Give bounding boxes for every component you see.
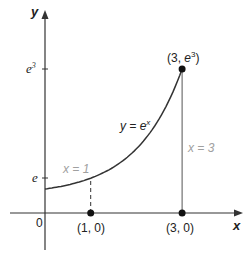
point-3-0: [179, 210, 186, 217]
y-tick-label-e: e: [32, 170, 38, 185]
point-label-3-0: (3, 0): [166, 221, 194, 235]
y-axis-arrow-icon: [42, 10, 49, 19]
point-label-3-e3: (3, e3): [167, 50, 199, 65]
curve-label: y = ex: [119, 118, 151, 133]
origin-label: 0: [36, 216, 43, 230]
x-axis-arrow-icon: [234, 210, 243, 217]
y-tick-label-e3: e3: [26, 61, 36, 76]
point-1-0: [87, 210, 94, 217]
x-axis-label: x: [232, 218, 241, 233]
diagram-canvas: x y 0 e e3 y = ex x = 1 x = 3 (1, 0) (3,…: [0, 0, 248, 258]
line-label-x3: x = 3: [187, 141, 215, 155]
point-label-1-0: (1, 0): [77, 221, 105, 235]
point-3-e3: [179, 66, 186, 73]
line-label-x1: x = 1: [62, 162, 89, 176]
y-axis-label: y: [30, 4, 39, 19]
